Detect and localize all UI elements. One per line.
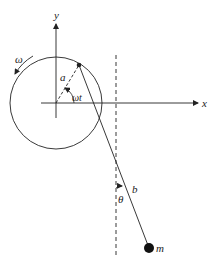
pendulum-angle-label: θ (118, 193, 124, 205)
pendulum-rod (79, 65, 149, 248)
y-axis-label: y (53, 9, 59, 21)
angular-velocity-label: ω (15, 53, 23, 65)
pendulum-angle-arc (116, 186, 122, 188)
pendulum-diagram: y x ω a ωt b θ m (0, 0, 217, 268)
radius-label: a (60, 71, 66, 83)
pendulum-length-label: b (132, 183, 138, 195)
mass-label: m (156, 242, 164, 254)
pivot-point (77, 63, 82, 68)
x-axis-label: x (201, 97, 207, 109)
mass-bob (144, 243, 154, 253)
rotation-angle-label: ωt (72, 92, 82, 103)
